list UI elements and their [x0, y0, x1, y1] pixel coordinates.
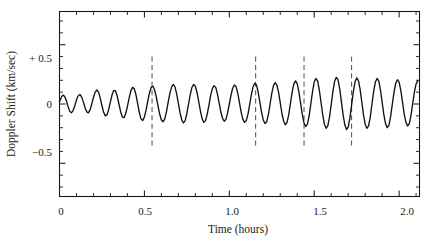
y-tick-label-zero: 0 [47, 98, 53, 110]
doppler-shift-series [60, 77, 418, 129]
x-tick-label-0-5: 0.5 [138, 205, 152, 217]
y-axis-title: Doppler Shift (km/sec) [5, 51, 18, 157]
x-tick-label-1-0: 1.0 [225, 205, 239, 217]
doppler-shift-chart-figure: Doppler Shift (km/sec) + 0.5 0 −0.5 0 0.… [0, 0, 432, 242]
x-tick-label-1-5: 1.5 [313, 205, 327, 217]
x-axis-title: Time (hours) [208, 223, 268, 236]
y-tick-label-plus-half: + 0.5 [29, 52, 52, 64]
x-tick-label-2-0: 2.0 [400, 205, 414, 217]
y-tick-label-minus-half: −0.5 [32, 146, 52, 158]
x-tick-label-0: 0 [58, 205, 64, 217]
chart-canvas: Doppler Shift (km/sec) + 0.5 0 −0.5 0 0.… [0, 0, 432, 242]
